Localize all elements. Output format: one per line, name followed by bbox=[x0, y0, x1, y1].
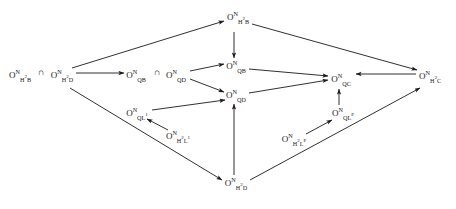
diagram-arrow bbox=[250, 88, 420, 180]
intersection-symbol: ∩ bbox=[38, 67, 45, 77]
diagram-node: ONQD bbox=[166, 71, 186, 80]
diagram-node: ONQC bbox=[331, 75, 351, 84]
diagram-node: ONQB bbox=[226, 62, 246, 71]
diagram-node: ONH2LP bbox=[282, 135, 307, 144]
diagram-node: ONH2D bbox=[225, 179, 247, 188]
diagram-arrow bbox=[147, 119, 168, 130]
diagram-arrow bbox=[72, 21, 224, 68]
diagram-node: ONH2B bbox=[9, 71, 31, 80]
diagram-arrow bbox=[190, 64, 224, 71]
diagram-arrow bbox=[252, 24, 417, 70]
diagram-node: ONQD bbox=[226, 91, 246, 100]
diagram-arrow bbox=[70, 88, 222, 180]
diagram-arrow bbox=[249, 80, 328, 93]
diagram-node: ONQB bbox=[126, 71, 146, 80]
diagram-node: ONQLP bbox=[332, 109, 354, 118]
diagram-node: ONH2B bbox=[227, 13, 249, 22]
diagram-arrow bbox=[190, 79, 224, 92]
diagram-arrow bbox=[249, 69, 328, 76]
commutative-diagram: ONH2BONH2DONQBONQDONH2BONQBONQDONQL1ONH2… bbox=[0, 0, 456, 209]
diagram-arrow bbox=[306, 120, 332, 134]
diagram-node: ONQL1 bbox=[126, 109, 148, 118]
diagram-arrow bbox=[152, 100, 225, 110]
diagram-node: ONH2C bbox=[419, 72, 441, 81]
diagram-node: ONH2L1 bbox=[166, 132, 190, 141]
intersection-symbol: ∩ bbox=[154, 67, 161, 77]
diagram-node: ONH2D bbox=[51, 71, 73, 80]
